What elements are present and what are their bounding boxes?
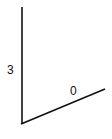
vertical-side-label: 3: [7, 64, 14, 76]
angle-diagram: [0, 0, 112, 139]
slanted-side-label: 0: [70, 85, 77, 97]
slanted-side: [21, 89, 105, 124]
